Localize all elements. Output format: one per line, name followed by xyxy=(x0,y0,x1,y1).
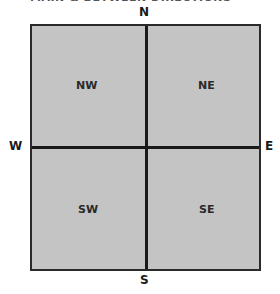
east-label: E xyxy=(265,139,273,153)
diagram-title: MAIN & BETWEEN DIRECTIONS xyxy=(30,0,250,4)
compass-grid: NW NE SW SE xyxy=(30,24,261,271)
quadrant-se-label: SE xyxy=(199,203,214,216)
quadrant-sw-label: SW xyxy=(78,203,98,216)
south-label: S xyxy=(140,273,149,287)
quadrant-ne-label: NE xyxy=(198,79,215,92)
east-west-axis xyxy=(32,146,259,149)
west-label: W xyxy=(9,139,22,153)
north-label: N xyxy=(139,5,149,19)
quadrant-nw-label: NW xyxy=(76,79,97,92)
